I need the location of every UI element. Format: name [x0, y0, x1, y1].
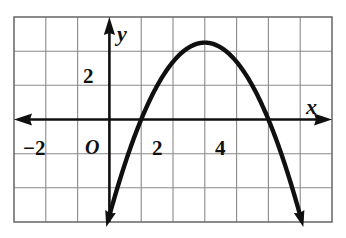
x-tick-label-4: 4 [215, 136, 226, 160]
coordinate-plane: y x O 2 −2 2 4 [0, 0, 346, 238]
y-tick-label-2: 2 [83, 64, 94, 88]
graph-figure: y x O 2 −2 2 4 [0, 0, 346, 238]
x-tick-label-neg2: −2 [23, 136, 45, 160]
origin-label: O [85, 136, 99, 158]
x-axis-label: x [305, 94, 317, 119]
x-tick-label-2: 2 [152, 136, 163, 160]
